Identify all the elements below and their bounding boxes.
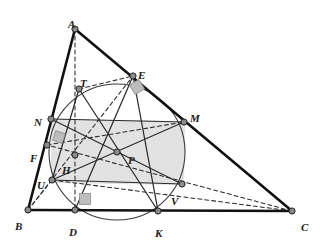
point-dot-U bbox=[49, 177, 55, 183]
right-angle-at-D bbox=[80, 194, 91, 205]
point-label-E: E bbox=[138, 70, 145, 81]
geometry-figure-canvas: ABCDEFHPNMKTUV bbox=[0, 0, 322, 243]
point-dot-B bbox=[25, 207, 31, 213]
point-label-C: C bbox=[301, 222, 308, 233]
point-dot-M bbox=[181, 119, 187, 125]
point-label-N: N bbox=[34, 117, 42, 128]
point-dot-H bbox=[72, 152, 78, 158]
point-dot-F bbox=[44, 142, 50, 148]
point-label-H: H bbox=[62, 165, 71, 176]
geometry-svg bbox=[0, 0, 322, 243]
point-dot-D bbox=[72, 207, 78, 213]
point-label-T: T bbox=[80, 78, 87, 89]
point-dot-E bbox=[130, 73, 136, 79]
point-label-F: F bbox=[30, 153, 37, 164]
point-label-V: V bbox=[171, 196, 178, 207]
point-label-D: D bbox=[69, 227, 77, 238]
point-label-K: K bbox=[155, 228, 162, 239]
point-label-P: P bbox=[128, 155, 135, 166]
point-dot-N bbox=[48, 116, 54, 122]
point-dot-C bbox=[289, 208, 295, 214]
point-label-M: M bbox=[190, 113, 200, 124]
point-dot-K bbox=[155, 208, 161, 214]
point-label-B: B bbox=[15, 221, 22, 232]
point-dot-P bbox=[114, 149, 120, 155]
point-label-U: U bbox=[37, 180, 45, 191]
point-dot-V bbox=[179, 181, 185, 187]
right-angle-at-E bbox=[129, 79, 144, 94]
point-label-A: A bbox=[68, 19, 75, 30]
